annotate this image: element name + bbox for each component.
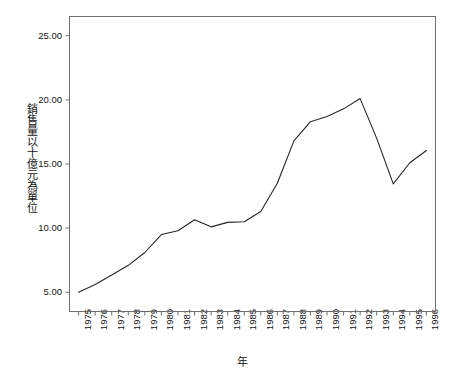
sales-line-series [79, 99, 427, 293]
chart-figure: 銷售量以十億元為單位 25.0020.0015.0010.005.00 1975… [0, 0, 461, 378]
y-axis-ticks [66, 36, 70, 293]
plot-area [0, 0, 461, 378]
x-axis-ticks [79, 312, 427, 316]
